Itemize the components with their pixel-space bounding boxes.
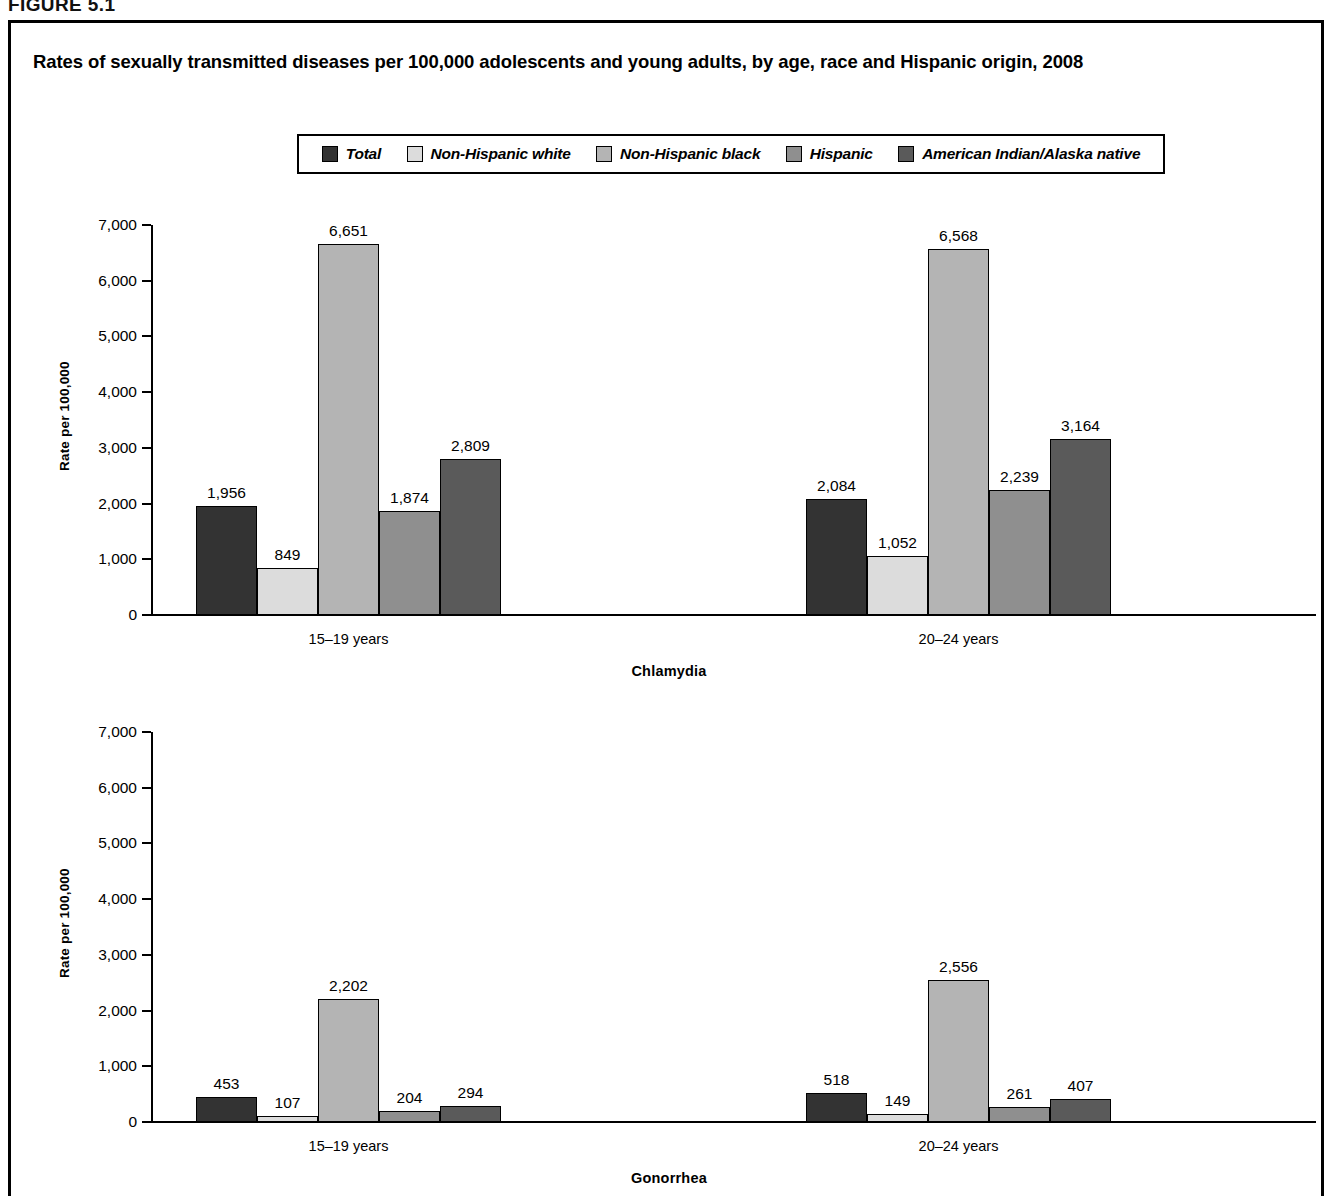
bar-value-label: 204 [397,1089,423,1107]
y-axis-tick-label: 3,000 [98,439,137,457]
legend-swatch-total [322,146,338,162]
bar-group: 1,9568496,6511,8742,80915–19 years [196,225,501,615]
bar: 518 [806,1093,867,1122]
bar: 149 [867,1114,928,1122]
x-axis-group-label: 15–19 years [309,1138,389,1154]
y-axis-tick [142,335,151,337]
legend-label-hispanic: Hispanic [810,145,873,163]
bar-value-label: 2,556 [939,958,978,976]
y-axis-tick-label: 0 [128,606,137,624]
bar: 6,651 [318,244,379,615]
bar: 1,956 [196,506,257,615]
panel-gonorrhea: Rate per 100,000 01,0002,0003,0004,0005,… [11,698,1324,1193]
legend-swatch-non-hispanic-white [407,146,423,162]
y-axis-tick-label: 5,000 [98,327,137,345]
bar-group: 4531072,20220429415–19 years [196,732,501,1122]
bar: 407 [1050,1099,1111,1122]
bar: 261 [989,1107,1050,1122]
figure-frame: Rates of sexually transmitted diseases p… [8,20,1324,1196]
bar-value-label: 2,239 [1000,468,1039,486]
bar: 2,084 [806,499,867,615]
footnote-partial [33,1190,1033,1196]
y-axis-tick-label: 6,000 [98,272,137,290]
bar: 849 [257,568,318,615]
y-axis-tick [142,503,151,505]
panel-label-chlamydia: Chlamydia [11,663,1324,679]
y-axis-line [151,732,153,1122]
bar-group: 2,0841,0526,5682,2393,16420–24 years [806,225,1111,615]
bar-value-label: 1,874 [390,489,429,507]
bar: 204 [379,1111,440,1122]
y-axis-tick-label: 7,000 [98,723,137,741]
y-axis-tick-label: 1,000 [98,1057,137,1075]
legend-label-american-indian-alaska-native: American Indian/Alaska native [922,145,1140,163]
y-axis-tick [142,1065,151,1067]
bar: 2,556 [928,980,989,1122]
bar: 6,568 [928,249,989,615]
bar-value-label: 453 [214,1075,240,1093]
bar: 2,202 [318,999,379,1122]
y-axis-tick-label: 0 [128,1113,137,1131]
y-axis-tick [142,787,151,789]
chart-legend: Total Non-Hispanic white Non-Hispanic bl… [297,134,1165,174]
y-axis-title-gonorrhea: Rate per 100,000 [57,868,72,978]
legend-item-total: Total [322,145,381,163]
y-axis-tick [142,447,151,449]
y-axis-tick-label: 2,000 [98,1002,137,1020]
bar: 453 [196,1097,257,1122]
y-axis-tick-label: 2,000 [98,495,137,513]
bar: 3,164 [1050,439,1111,615]
bar: 294 [440,1106,501,1122]
y-axis-title-chlamydia: Rate per 100,000 [57,361,72,471]
bar-group: 5181492,55626140720–24 years [806,732,1111,1122]
legend-swatch-non-hispanic-black [596,146,612,162]
legend-label-non-hispanic-white: Non-Hispanic white [431,145,571,163]
bar-value-label: 2,202 [329,977,368,995]
y-axis-tick [142,954,151,956]
y-axis-line [151,225,153,615]
bar: 2,809 [440,459,501,616]
bar: 1,874 [379,511,440,615]
legend-label-total: Total [346,145,381,163]
y-axis-tick [142,280,151,282]
y-axis-tick [142,391,151,393]
figure-number-label: FIGURE 5.1 [8,0,115,16]
bar-value-label: 1,052 [878,534,917,552]
legend-swatch-hispanic [786,146,802,162]
bar-value-label: 518 [824,1071,850,1089]
y-axis-tick [142,842,151,844]
bar: 107 [257,1116,318,1122]
bar-value-label: 3,164 [1061,417,1100,435]
plot-area-chlamydia: 01,0002,0003,0004,0005,0006,0007,0001,95… [151,225,1316,615]
y-axis-tick [142,731,151,733]
y-axis-tick-label: 3,000 [98,946,137,964]
y-axis-tick-label: 4,000 [98,383,137,401]
bar-value-label: 6,568 [939,227,978,245]
y-axis-tick-label: 4,000 [98,890,137,908]
bar-value-label: 2,809 [451,437,490,455]
legend-item-hispanic: Hispanic [786,145,873,163]
y-axis-tick [142,558,151,560]
x-axis-group-label: 20–24 years [919,1138,999,1154]
chart-title: Rates of sexually transmitted diseases p… [33,51,1083,73]
panel-chlamydia: Rate per 100,000 01,0002,0003,0004,0005,… [11,191,1324,691]
bar-value-label: 261 [1007,1085,1033,1103]
x-axis-group-label: 15–19 years [309,631,389,647]
legend-label-non-hispanic-black: Non-Hispanic black [620,145,760,163]
bar-value-label: 407 [1068,1077,1094,1095]
y-axis-tick [142,898,151,900]
bar-value-label: 6,651 [329,222,368,240]
bar-value-label: 149 [885,1092,911,1110]
y-axis-tick-label: 1,000 [98,550,137,568]
bar-value-label: 294 [458,1084,484,1102]
bar-value-label: 107 [275,1094,301,1112]
legend-item-american-indian-alaska-native: American Indian/Alaska native [898,145,1140,163]
bar-value-label: 849 [275,546,301,564]
y-axis-tick [142,1121,151,1123]
legend-item-non-hispanic-black: Non-Hispanic black [596,145,760,163]
y-axis-tick-label: 7,000 [98,216,137,234]
legend-swatch-american-indian-alaska-native [898,146,914,162]
bar: 1,052 [867,556,928,615]
legend-item-non-hispanic-white: Non-Hispanic white [407,145,571,163]
y-axis-tick [142,1010,151,1012]
